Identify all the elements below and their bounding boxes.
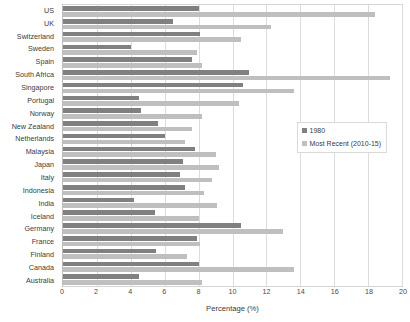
bar-most-recent	[63, 242, 200, 247]
bar-row	[63, 248, 402, 261]
category-label: Spain	[0, 55, 58, 68]
bar-1980	[63, 274, 139, 279]
x-tick-label: 18	[365, 288, 373, 295]
bar-most-recent	[63, 165, 219, 170]
bar-most-recent	[63, 12, 375, 17]
bar-1980	[63, 19, 173, 24]
bar-1980	[63, 83, 243, 88]
bar-most-recent	[63, 254, 187, 259]
bar-1980	[63, 159, 183, 164]
category-label: Malaysia	[0, 145, 58, 158]
bar-1980	[63, 121, 158, 126]
bar-row	[63, 82, 402, 95]
bar-row	[63, 69, 402, 82]
bar-most-recent	[63, 178, 212, 183]
gridline	[402, 5, 403, 286]
x-tick-label: 16	[331, 288, 339, 295]
category-label: US	[0, 4, 58, 17]
category-label: Germany	[0, 223, 58, 236]
bar-most-recent	[63, 37, 241, 42]
bar-1980	[63, 249, 156, 254]
legend-label-most-recent: Most Recent (2010-15)	[310, 140, 382, 147]
x-axis-title: Percentage (%)	[62, 304, 403, 313]
bar-1980	[63, 236, 197, 241]
bar-most-recent	[63, 229, 283, 234]
bar-1980	[63, 96, 139, 101]
bar-most-recent	[63, 101, 239, 106]
value-axis: 02468101214161820	[62, 288, 403, 302]
category-label: Portugal	[0, 94, 58, 107]
category-label: South Africa	[0, 68, 58, 81]
category-label: India	[0, 197, 58, 210]
bar-row	[63, 235, 402, 248]
x-tick-label: 4	[128, 288, 132, 295]
legend-entry-1980: 1980	[302, 127, 381, 134]
bar-most-recent	[63, 127, 192, 132]
bar-most-recent	[63, 203, 217, 208]
bar-most-recent	[63, 152, 216, 157]
category-label: Netherlands	[0, 133, 58, 146]
bar-row	[63, 18, 402, 31]
bar-row	[63, 171, 402, 184]
category-label: Italy	[0, 171, 58, 184]
bar-most-recent	[63, 76, 390, 81]
category-axis: USUKSwitzerlandSwedenSpainSouth AfricaSi…	[0, 4, 58, 287]
bar-most-recent	[63, 280, 202, 285]
bar-1980	[63, 134, 165, 139]
category-label: Singapore	[0, 81, 58, 94]
bar-1980	[63, 198, 134, 203]
bar-1980	[63, 262, 199, 267]
category-label: Norway	[0, 107, 58, 120]
category-label: Switzerland	[0, 30, 58, 43]
legend-swatch-most-recent	[302, 141, 307, 146]
bar-1980	[63, 57, 192, 62]
category-label: France	[0, 235, 58, 248]
bar-most-recent	[63, 50, 197, 55]
bar-chart: USUKSwitzerlandSwedenSpainSouth AfricaSi…	[0, 0, 410, 322]
x-tick-label: 0	[60, 288, 64, 295]
bar-1980	[63, 45, 131, 50]
bar-row	[63, 196, 402, 209]
bar-row	[63, 209, 402, 222]
bar-1980	[63, 210, 155, 215]
bar-most-recent	[63, 216, 199, 221]
bar-most-recent	[63, 89, 294, 94]
x-tick-label: 20	[399, 288, 407, 295]
category-label: New Zealand	[0, 120, 58, 133]
bar-most-recent	[63, 114, 202, 119]
bar-row	[63, 94, 402, 107]
bar-row	[63, 56, 402, 69]
x-tick-label: 12	[263, 288, 271, 295]
bar-most-recent	[63, 191, 204, 196]
bar-1980	[63, 172, 180, 177]
x-tick-label: 10	[229, 288, 237, 295]
chart-legend: 1980 Most Recent (2010-15)	[297, 122, 387, 153]
bar-1980	[63, 6, 199, 11]
x-tick-label: 14	[297, 288, 305, 295]
category-label: Finland	[0, 248, 58, 261]
category-label: Japan	[0, 158, 58, 171]
x-tick-label: 6	[162, 288, 166, 295]
bar-most-recent	[63, 140, 185, 145]
category-label: Indonesia	[0, 184, 58, 197]
category-label: Sweden	[0, 43, 58, 56]
bar-1980	[63, 70, 249, 75]
category-label: Iceland	[0, 210, 58, 223]
x-tick-label: 8	[196, 288, 200, 295]
bar-row	[63, 107, 402, 120]
bar-row	[63, 31, 402, 44]
bar-1980	[63, 147, 195, 152]
bar-row	[63, 43, 402, 56]
bar-most-recent	[63, 25, 271, 30]
bar-row	[63, 5, 402, 18]
bar-row	[63, 260, 402, 273]
category-label: UK	[0, 17, 58, 30]
bar-1980	[63, 185, 185, 190]
category-label: Canada	[0, 261, 58, 274]
bar-row	[63, 184, 402, 197]
bar-most-recent	[63, 63, 202, 68]
legend-entry-most-recent: Most Recent (2010-15)	[302, 140, 381, 147]
x-tick-label: 2	[94, 288, 98, 295]
bar-row	[63, 222, 402, 235]
bar-most-recent	[63, 267, 294, 272]
